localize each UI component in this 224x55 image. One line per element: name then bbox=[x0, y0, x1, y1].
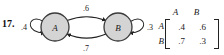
self-loop-a-label: .4 bbox=[21, 23, 27, 32]
edge-b-to-a-label: .7 bbox=[83, 44, 89, 53]
matrix-row: .7 .3 bbox=[171, 34, 213, 48]
matrix-cell-aa: .4 bbox=[171, 20, 192, 34]
matrix-cell-bb: .3 bbox=[192, 34, 213, 48]
matrix-row-labels: A B bbox=[156, 8, 164, 49]
matrix-row: .4 .6 bbox=[171, 20, 213, 34]
matrix-row-label-b: B bbox=[156, 34, 164, 49]
self-loop-b-label: .3 bbox=[147, 23, 153, 32]
matrix-column-label-a: A bbox=[165, 8, 186, 19]
matrix-cell-ba: .7 bbox=[171, 34, 192, 48]
state-node-a-label: A bbox=[51, 23, 58, 33]
matrix-column-label-b: B bbox=[186, 8, 207, 19]
edge-a-to-b bbox=[67, 17, 106, 21]
edge-a-to-b-label: .6 bbox=[83, 4, 89, 13]
matrix-bracket-right bbox=[214, 19, 219, 49]
matrix-column-labels: A B bbox=[165, 8, 219, 19]
matrix-row-label-a: A bbox=[156, 19, 164, 34]
edge-b-to-a bbox=[67, 34, 106, 38]
state-node-b-label: B bbox=[115, 23, 121, 33]
transition-matrix: A B A B .4 .6 .7 bbox=[156, 0, 219, 55]
exercise-figure: 17. A B .4 .3 .6 .7 A B bbox=[0, 0, 224, 55]
matrix-cells: .4 .6 .7 .3 bbox=[170, 19, 214, 49]
matrix-cell-ab: .6 bbox=[192, 20, 213, 34]
